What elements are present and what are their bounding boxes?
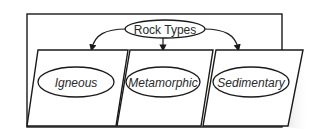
rock-types-foldable-diagram: Rock Types Igneous Metamorphic Sedimenta… [0, 0, 315, 132]
metamorphic-label: Metamorphic [128, 76, 197, 90]
root-label: Rock Types [134, 23, 196, 37]
igneous-label: Igneous [55, 76, 98, 90]
flap-igneous[interactable]: Igneous [27, 50, 128, 126]
flap-metamorphic[interactable]: Metamorphic [117, 50, 213, 126]
root-node: Rock Types [125, 20, 205, 38]
sedimentary-label: Sedimentary [217, 76, 285, 90]
flap-sedimentary[interactable]: Sedimentary [203, 50, 303, 126]
